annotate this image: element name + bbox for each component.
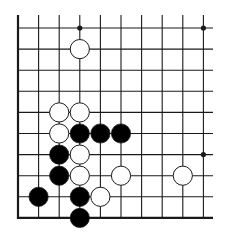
white-stone	[91, 187, 110, 206]
white-stone	[70, 40, 89, 59]
black-stone	[50, 145, 69, 164]
white-stone	[70, 145, 89, 164]
white-stone	[111, 166, 130, 185]
go-board	[0, 0, 226, 241]
black-stone	[70, 208, 89, 227]
board-grid	[17, 15, 213, 218]
white-stone	[50, 103, 69, 122]
black-stone	[91, 124, 110, 143]
white-stone	[70, 166, 89, 185]
star-point	[77, 25, 82, 30]
black-stone	[70, 187, 89, 206]
white-stone	[173, 166, 192, 185]
white-stone	[50, 124, 69, 143]
black-stone	[50, 166, 69, 185]
black-stone	[29, 187, 48, 206]
black-stone	[111, 124, 130, 143]
star-point	[201, 25, 206, 30]
star-point	[201, 152, 206, 157]
white-stone	[70, 103, 89, 122]
black-stone	[70, 124, 89, 143]
